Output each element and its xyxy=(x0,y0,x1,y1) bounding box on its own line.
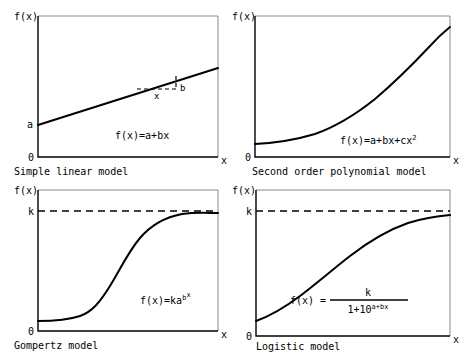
origin-tick-label: 0 xyxy=(28,326,34,337)
formula-logistic-numerator: k xyxy=(365,287,371,298)
intercept-label-a: a xyxy=(27,119,33,130)
linear-curve xyxy=(38,68,218,125)
formula-logistic-lhs: f(x) = xyxy=(290,295,326,306)
origin-tick-label: 0 xyxy=(28,152,34,163)
panel-simple-linear-model: f(x) x 0 a x b f(x)=a+bx Simple linear m… xyxy=(0,0,232,182)
panel-logistic-model: f(x) x 0 k f(x) = k 1+10a+bx Logistic mo… xyxy=(232,182,464,363)
slope-run-label-x: x xyxy=(154,91,160,101)
panel-gompertz-model: f(x) x 0 k f(x)=kabx Gompertz model xyxy=(0,182,232,363)
gompertz-curve xyxy=(38,213,218,321)
quadratic-curve xyxy=(255,27,450,144)
asymptote-label-k: k xyxy=(246,206,252,217)
origin-tick-label: 0 xyxy=(246,331,252,342)
x-axis-label: x xyxy=(221,155,227,166)
y-axis-label: f(x) xyxy=(232,11,256,22)
slope-rise-label-b: b xyxy=(180,83,185,93)
origin-tick-label: 0 xyxy=(245,152,251,163)
formula-logistic-denominator: 1+10a+bx xyxy=(348,303,389,315)
panel-second-order-polynomial-model: f(x) x 0 f(x)=a+bx+cx2 Second order poly… xyxy=(232,0,464,182)
caption-gompertz-model: Gompertz model xyxy=(14,340,98,351)
y-axis-label: f(x) xyxy=(14,185,38,196)
caption-logistic-model: Logistic model xyxy=(256,341,340,352)
x-axis-label: x xyxy=(453,334,459,345)
formula-linear: f(x)=a+bx xyxy=(115,130,169,141)
x-axis-label: x xyxy=(453,155,459,166)
x-axis-label: x xyxy=(221,329,227,340)
caption-second-order-polynomial-model: Second order polynomial model xyxy=(252,166,427,177)
caption-simple-linear-model: Simple linear model xyxy=(14,166,128,177)
figure-container: f(x) x 0 a x b f(x)=a+bx Simple linear m… xyxy=(0,0,464,363)
asymptote-label-k: k xyxy=(28,206,34,217)
y-axis-label: f(x) xyxy=(232,185,256,196)
y-axis-label: f(x) xyxy=(14,11,38,22)
formula-gompertz: f(x)=kabx xyxy=(140,291,191,306)
formula-quadratic: f(x)=a+bx+cx2 xyxy=(340,134,416,146)
